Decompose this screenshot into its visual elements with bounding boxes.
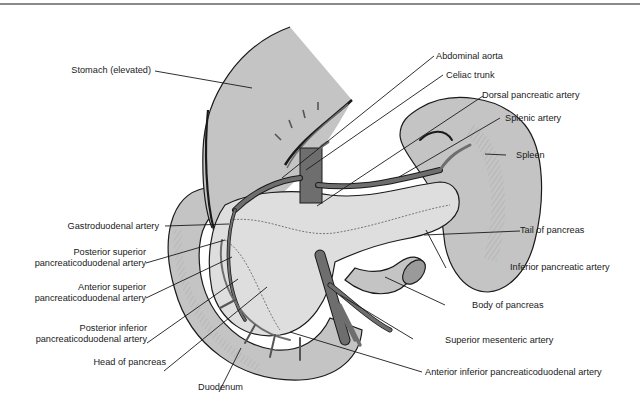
label-anterior-superior-pd-artery-line1: Anterior superior	[78, 282, 146, 293]
label-anterior-superior-pd-artery-line2: pancreaticoduodenal artery	[35, 293, 146, 304]
label-posterior-inferior-pd-artery-line1: Posterior inferior	[80, 323, 147, 334]
label-posterior-superior-pd-artery-line1: Posterior superior	[73, 247, 146, 258]
label-celiac-trunk: Celiac trunk	[446, 70, 495, 81]
label-anterior-inferior-pd-artery: Anterior inferior pancreaticoduodenal ar…	[425, 367, 602, 378]
label-stomach: Stomach (elevated)	[71, 65, 151, 76]
pancreas-anatomy-illustration	[0, 0, 640, 415]
label-posterior-inferior-pd-artery-line2: pancreaticoduodenal artery	[36, 334, 147, 345]
label-posterior-superior-pd-artery-line2: pancreaticoduodenal artery	[35, 258, 146, 269]
jejunum-shape	[345, 255, 430, 293]
label-head-of-pancreas: Head of pancreas	[93, 357, 166, 368]
label-duodenum: Duodenum	[198, 382, 243, 393]
label-superior-mesenteric-artery: Superior mesenteric artery	[445, 335, 553, 346]
label-abdominal-aorta: Abdominal aorta	[436, 51, 503, 62]
label-dorsal-pancreatic-artery: Dorsal pancreatic artery	[482, 90, 580, 101]
label-body-of-pancreas: Body of pancreas	[472, 300, 544, 311]
label-spleen: Spleen	[516, 150, 545, 161]
label-tail-of-pancreas: Tail of pancreas	[520, 225, 584, 236]
label-gastroduodenal-artery: Gastroduodenal artery	[68, 221, 159, 232]
label-splenic-artery: Splenic artery	[505, 113, 561, 124]
label-inferior-pancreatic-artery: Inferior pancreatic artery	[510, 262, 610, 273]
